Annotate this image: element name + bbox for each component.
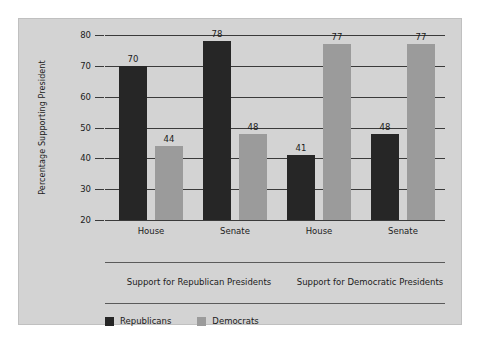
bar-democrats-group1-senate (407, 44, 435, 220)
chart-figure: Percentage Supporting President 20304050… (18, 18, 462, 325)
bar-value-label-democrats-group1-senate: 77 (416, 32, 427, 42)
y-tick-50 (95, 128, 104, 129)
bar-republicans-group1-house (287, 155, 315, 220)
bar-value-label-democrats-group0-house: 44 (164, 134, 175, 144)
category-label-3-senate: Senate (388, 226, 418, 236)
y-tick-80 (95, 35, 104, 36)
legend-item-democrats: Democrats (197, 316, 258, 326)
y-tick-60 (95, 97, 104, 98)
gridline-20 (105, 220, 445, 221)
bar-value-label-democrats-group0-senate: 48 (248, 122, 259, 132)
bar-democrats-group0-house (155, 146, 183, 220)
legend-label-democrats: Democrats (212, 316, 258, 326)
y-tick-label-80: 80 (80, 30, 91, 40)
y-tick-20 (95, 220, 104, 221)
bar-republicans-group0-house (119, 66, 147, 220)
gridline-60 (105, 97, 445, 98)
category-label-1-senate: Senate (220, 226, 250, 236)
bar-value-label-republicans-group1-house: 41 (296, 143, 307, 153)
category-label-2-house: House (306, 226, 333, 236)
y-tick-30 (95, 189, 104, 190)
group-label-republican-presidents: Support for Republican Presidents (127, 277, 271, 287)
bar-democrats-group1-house (323, 44, 351, 220)
bar-value-label-republicans-group1-senate: 48 (380, 122, 391, 132)
y-tick-label-20: 20 (80, 215, 91, 225)
y-tick-70 (95, 66, 104, 67)
bar-republicans-group0-senate (203, 41, 231, 220)
legend-swatch-democrats (197, 317, 206, 326)
bar-value-label-democrats-group1-house: 77 (332, 32, 343, 42)
bar-democrats-group0-senate (239, 134, 267, 220)
y-tick-label-60: 60 (80, 92, 91, 102)
y-tick-label-70: 70 (80, 61, 91, 71)
category-label-0-house: House (138, 226, 165, 236)
y-tick-label-40: 40 (80, 153, 91, 163)
group-label-democratic-presidents: Support for Democratic Presidents (297, 277, 443, 287)
gridline-70 (105, 66, 445, 67)
y-tick-label-30: 30 (80, 184, 91, 194)
group-band-bottom-rule (105, 303, 445, 304)
bar-value-label-republicans-group0-house: 70 (128, 54, 139, 64)
bar-value-label-republicans-group0-senate: 78 (212, 29, 223, 39)
group-band-top-rule (105, 262, 445, 263)
gridline-80 (105, 35, 445, 36)
bar-republicans-group1-senate (371, 134, 399, 220)
y-axis-title: Percentage Supporting President (38, 43, 47, 213)
y-tick-40 (95, 158, 104, 159)
legend-item-republicans: Republicans (105, 316, 171, 326)
gridline-50 (105, 128, 445, 129)
y-tick-label-50: 50 (80, 123, 91, 133)
legend-label-republicans: Republicans (120, 316, 171, 326)
legend-swatch-republicans (105, 317, 114, 326)
plot-area: 203040506070807044784841774877 (105, 35, 445, 220)
chart-legend: Republicans Democrats (105, 316, 259, 326)
